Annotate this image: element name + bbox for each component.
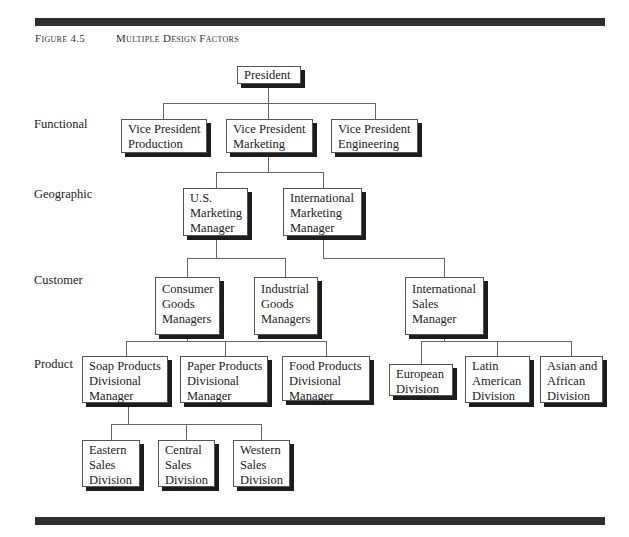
figure-number: Figure 4.5 — [35, 32, 85, 44]
connector — [128, 403, 129, 424]
connector — [268, 103, 269, 119]
bottom-rule — [35, 517, 605, 525]
level-label-geographic: Geographic — [34, 187, 92, 202]
node-vp-production: Vice President Production — [121, 119, 207, 153]
connector — [216, 172, 217, 188]
node-eastern-sales: Eastern Sales Division — [82, 440, 140, 487]
level-label-customer: Customer — [34, 273, 83, 288]
figure-title: Multiple Design Factors — [116, 32, 239, 44]
connector — [421, 341, 422, 364]
node-food-products: Food Products Divisional Manager — [282, 356, 370, 401]
top-rule — [35, 18, 605, 26]
node-latin-american-division: Latin American Division — [465, 356, 530, 403]
node-soap-products: Soap Products Divisional Manager — [82, 356, 168, 403]
node-vp-marketing: Vice President Marketing — [226, 119, 313, 153]
connector — [323, 258, 445, 259]
node-western-sales: Western Sales Division — [233, 440, 290, 487]
connector — [375, 103, 376, 119]
level-label-product: Product — [34, 357, 73, 372]
connector — [163, 103, 376, 104]
node-central-sales: Central Sales Division — [158, 440, 215, 487]
connector — [444, 258, 445, 277]
connector — [285, 258, 286, 277]
level-label-functional: Functional — [34, 117, 87, 132]
node-president: President — [237, 66, 301, 84]
connector — [163, 103, 164, 119]
connector — [261, 424, 262, 440]
connector — [268, 153, 269, 172]
connector — [216, 172, 324, 173]
node-paper-products: Paper Products Divisional Manager — [180, 356, 268, 403]
node-european-division: European Division — [389, 364, 453, 396]
connector — [571, 341, 572, 356]
connector — [111, 424, 112, 440]
node-intl-marketing-manager: International Marketing Manager — [283, 188, 362, 236]
connector — [323, 236, 324, 258]
node-intl-sales-manager: International Sales Manager — [405, 277, 484, 335]
connector — [497, 341, 498, 356]
connector — [323, 172, 324, 188]
node-consumer-goods: Consumer Goods Managers — [155, 277, 220, 335]
connector — [187, 258, 286, 259]
node-asian-african-division: Asian and African Division — [540, 356, 603, 403]
connector — [216, 236, 217, 258]
connector — [126, 341, 327, 342]
connector — [126, 341, 127, 356]
connector — [326, 341, 327, 356]
connector — [186, 424, 187, 440]
connector — [268, 83, 269, 103]
connector — [187, 258, 188, 277]
node-us-marketing-manager: U.S. Marketing Manager — [183, 188, 248, 236]
node-industrial-goods: Industrial Goods Managers — [254, 277, 318, 335]
node-vp-engineering: Vice President Engineering — [331, 119, 418, 153]
connector — [225, 341, 226, 356]
